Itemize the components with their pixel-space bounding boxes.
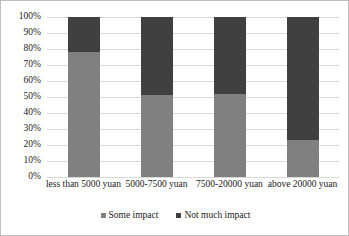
- y-tick-label: 10%: [24, 156, 41, 166]
- y-axis: 100%90%80%70%60%50%40%30%20%10%0%: [1, 17, 45, 177]
- y-tick-label: 40%: [24, 108, 41, 118]
- bar-segment-not-much-impact[interactable]: [68, 17, 100, 52]
- legend-item[interactable]: Not much impact: [176, 211, 250, 221]
- bar-segment-not-much-impact[interactable]: [287, 17, 319, 140]
- y-tick-label: 50%: [24, 92, 41, 102]
- bar-segment-some-impact[interactable]: [141, 95, 173, 177]
- bar-segment-some-impact[interactable]: [68, 52, 100, 177]
- bar-group[interactable]: [141, 17, 173, 177]
- y-tick-label: 0%: [28, 172, 41, 182]
- y-tick-label: 100%: [19, 12, 41, 22]
- x-tick-label: 5000-7500 yuan: [118, 179, 196, 190]
- y-tick-label: 90%: [24, 28, 41, 38]
- y-tick-label: 60%: [24, 76, 41, 86]
- plot-area: [47, 17, 339, 177]
- legend-label: Not much impact: [184, 211, 250, 221]
- bar-segment-not-much-impact[interactable]: [141, 17, 173, 95]
- bar-group[interactable]: [287, 17, 319, 177]
- x-tick-label: 7500-20000 yuan: [191, 179, 269, 190]
- legend-square-marker-icon: [101, 213, 106, 218]
- bar-group[interactable]: [68, 17, 100, 177]
- bar-group[interactable]: [214, 17, 246, 177]
- legend-item[interactable]: Some impact: [101, 211, 159, 221]
- chart-legend: Some impactNot much impact: [1, 211, 349, 221]
- legend-label: Some impact: [109, 211, 159, 221]
- y-tick-label: 20%: [24, 140, 41, 150]
- y-tick-label: 70%: [24, 60, 41, 70]
- bar-segment-some-impact[interactable]: [214, 94, 246, 177]
- y-tick-label: 80%: [24, 44, 41, 54]
- legend-square-marker-icon: [176, 213, 181, 218]
- x-tick-label: less than 5000 yuan: [45, 179, 123, 190]
- bar-segment-not-much-impact[interactable]: [214, 17, 246, 94]
- bar-segment-some-impact[interactable]: [287, 140, 319, 177]
- x-axis: less than 5000 yuan5000-7500 yuan7500-20…: [47, 179, 339, 209]
- chart-container: 100%90%80%70%60%50%40%30%20%10%0% less t…: [0, 0, 349, 236]
- gridline: [47, 177, 339, 178]
- x-tick-label: above 20000 yuan: [264, 179, 342, 190]
- y-tick-label: 30%: [24, 124, 41, 134]
